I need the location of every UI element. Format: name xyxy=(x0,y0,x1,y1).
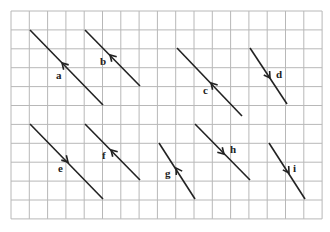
vector-line xyxy=(85,124,140,180)
vector-d: d xyxy=(250,48,287,104)
vector-b: b xyxy=(85,30,140,86)
vector-label: f xyxy=(102,149,106,161)
vectors: abcdefghi xyxy=(30,30,305,199)
vector-f: f xyxy=(85,124,140,180)
vector-label: b xyxy=(100,55,106,67)
vector-label: g xyxy=(165,167,171,179)
vector-label: a xyxy=(56,69,62,81)
vector-label: c xyxy=(203,84,208,96)
vector-line xyxy=(195,124,250,180)
vector-h: h xyxy=(195,124,250,180)
vector-label: d xyxy=(276,68,282,80)
vector-line xyxy=(269,143,305,199)
vector-grid-diagram: abcdefghi xyxy=(0,0,330,232)
vector-g: g xyxy=(159,143,195,199)
vector-i: i xyxy=(269,143,305,199)
vector-label: e xyxy=(58,162,63,174)
vector-label: h xyxy=(230,143,236,155)
grid xyxy=(11,11,322,219)
vector-e: e xyxy=(30,124,103,199)
vector-label: i xyxy=(293,162,296,174)
vector-line xyxy=(85,30,140,86)
